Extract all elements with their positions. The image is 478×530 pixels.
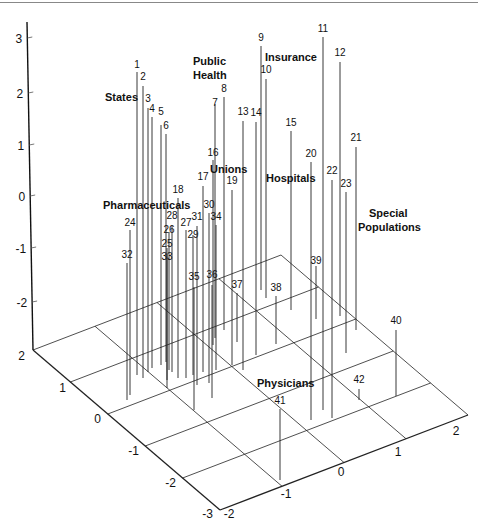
point-label: 33 [161,251,173,262]
y-tick-label: -3 [202,507,213,521]
point-label: 28 [166,210,178,221]
group-label: Pharmaceuticals [103,199,190,211]
x-tick-label: 2 [453,424,460,438]
point-label: 5 [158,106,164,117]
z-tick [28,92,33,93]
point-label: 34 [210,211,222,222]
point-label: 40 [390,315,402,326]
point-label: 32 [121,249,133,260]
point-label: 19 [226,175,238,186]
point-label: 15 [285,117,297,128]
group-label: Health [193,69,227,81]
group-label: Special [369,207,408,219]
point-label: 27 [180,217,192,228]
point-label: 35 [188,271,200,282]
floor-gridline [33,350,220,510]
group-label: Hospitals [266,172,316,184]
floor-gridline [219,279,406,439]
z-tick [27,37,32,38]
point-label: 26 [163,224,175,235]
floor-gridline [157,303,344,463]
point-label: 13 [237,106,249,117]
point-label: 14 [250,107,262,118]
z-tick-label: 0 [18,190,25,204]
group-label: Public [193,55,226,67]
point-label: 41 [274,395,286,406]
z-tick-label: -1 [15,242,26,256]
y-tick-label: -1 [128,444,139,458]
point-label: 38 [270,282,282,293]
point-label: 6 [163,120,169,131]
point-label: 37 [231,279,243,290]
point-label: 8 [221,83,227,94]
y-tick-label: -2 [165,476,176,490]
point-label: 10 [260,64,272,75]
point-label: 20 [305,148,317,159]
x-tick-label: -2 [224,507,235,521]
data-stems: 1234567891011121314151617181920212223242… [121,23,402,480]
point-label: 31 [191,211,203,222]
point-label: 42 [353,374,365,385]
point-label: 2 [140,71,146,82]
group-label: Populations [358,221,421,233]
point-label: 11 [318,23,329,34]
point-label: 23 [340,178,352,189]
point-label: 24 [124,217,136,228]
point-label: 39 [310,255,322,266]
floor-gridline [220,415,468,510]
floor-gridline [95,326,282,486]
z-tick-label: -2 [16,296,27,310]
point-label: 25 [161,238,173,249]
point-label: 9 [258,32,264,43]
x-tick-label: -1 [281,487,292,501]
z-tick-label: 1 [18,139,25,153]
point-label: 21 [350,132,362,143]
group-label: Insurance [265,51,317,63]
point-label: 4 [149,103,155,114]
floor-gridline [183,383,431,478]
floor-grid [33,255,468,510]
point-label: 18 [172,184,184,195]
point-label: 17 [197,171,209,182]
point-label: 22 [326,165,338,176]
group-label: Unions [210,163,247,175]
z-tick-label: 3 [16,32,23,46]
y-tick-label: 0 [94,412,101,426]
y-tick-label: 2 [18,349,25,363]
floor-gridline [281,255,468,415]
x-tick-label: 1 [395,445,402,459]
group-label: Physicians [257,377,314,389]
z-axis-line [27,22,33,350]
floor-gridline [145,351,393,446]
point-label: 36 [206,269,218,280]
z-tick-label: 2 [17,87,24,101]
z-tick [31,247,36,248]
point-label: 12 [334,47,346,58]
point-label: 1 [134,59,140,70]
floor-gridline [33,255,281,350]
point-label: 30 [203,199,215,210]
3d-stem-chart: 3210-1-2210-1-2-3-2-1012 123456789101112… [0,0,478,530]
point-label: 7 [212,97,218,108]
x-tick-label: 0 [338,465,345,479]
z-tick [30,195,35,196]
z-tick [29,144,34,145]
z-tick [32,301,37,302]
point-label: 16 [207,147,219,158]
y-tick-label: 1 [59,381,66,395]
group-label: States [105,91,138,103]
